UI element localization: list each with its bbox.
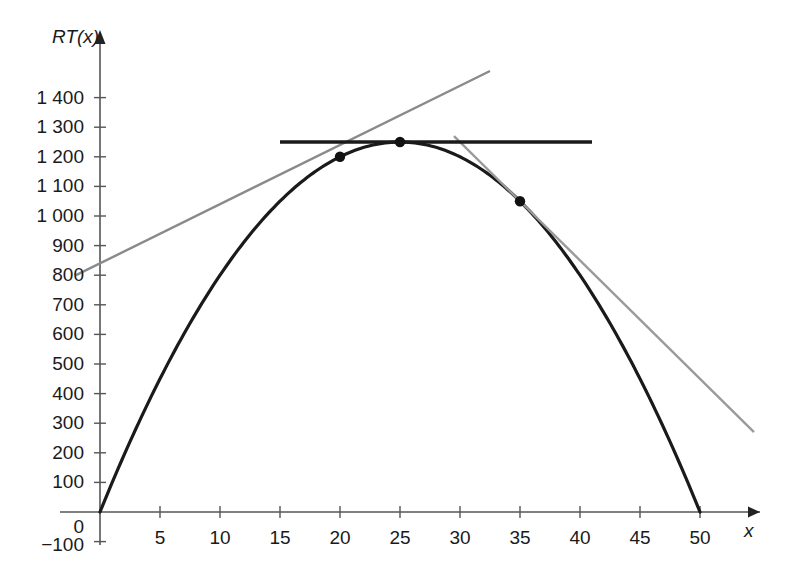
y-axis-tick-label: 700 xyxy=(0,294,84,316)
x-axis-tick-label: 45 xyxy=(629,527,650,549)
data-point-marker xyxy=(395,137,405,147)
y-axis-tick-label: 400 xyxy=(0,383,84,405)
y-axis-title: RT(x) xyxy=(52,26,99,48)
y-axis-tick-label: 1 100 xyxy=(0,175,84,197)
x-axis-tick-label: 40 xyxy=(569,527,590,549)
tangent-line xyxy=(76,71,490,275)
parabola-curve xyxy=(100,142,700,512)
x-axis-arrowhead xyxy=(748,507,760,518)
tangent-line xyxy=(454,136,754,432)
x-axis-tick-label: 20 xyxy=(329,527,350,549)
y-axis-tick-label: 1 300 xyxy=(0,116,84,138)
x-axis-tick-label: 25 xyxy=(389,527,410,549)
y-axis-tick-label: 1 000 xyxy=(0,205,84,227)
x-axis-tick-label: 5 xyxy=(155,527,166,549)
x-axis-tick-label: 30 xyxy=(449,527,470,549)
chart-container: 1 4001 3001 2001 1001 000900800700600500… xyxy=(0,0,796,583)
y-axis-tick-label: 600 xyxy=(0,323,84,345)
chart-plot-area xyxy=(0,0,796,583)
x-axis-tick-label: 10 xyxy=(209,527,230,549)
x-axis-tick-label: 35 xyxy=(509,527,530,549)
data-point-marker xyxy=(515,196,525,206)
y-axis-tick-label: 900 xyxy=(0,235,84,257)
data-point-marker xyxy=(335,152,345,162)
y-axis-tick-label: 300 xyxy=(0,412,84,434)
x-axis-tick-label: 50 xyxy=(689,527,710,549)
y-axis-tick-label: 500 xyxy=(0,353,84,375)
y-axis-tick-label: 200 xyxy=(0,442,84,464)
y-axis-tick-label: 800 xyxy=(0,264,84,286)
data-series-group xyxy=(76,71,754,512)
y-axis-tick-label: 100 xyxy=(0,471,84,493)
y-axis-tick-label: 1 200 xyxy=(0,146,84,168)
axes-group xyxy=(60,30,760,545)
x-axis-tick-label: 15 xyxy=(269,527,290,549)
x-axis-title: x xyxy=(744,520,754,542)
y-axis-tick-label: −100 xyxy=(0,534,84,556)
y-axis-tick-label: 1 400 xyxy=(0,87,84,109)
